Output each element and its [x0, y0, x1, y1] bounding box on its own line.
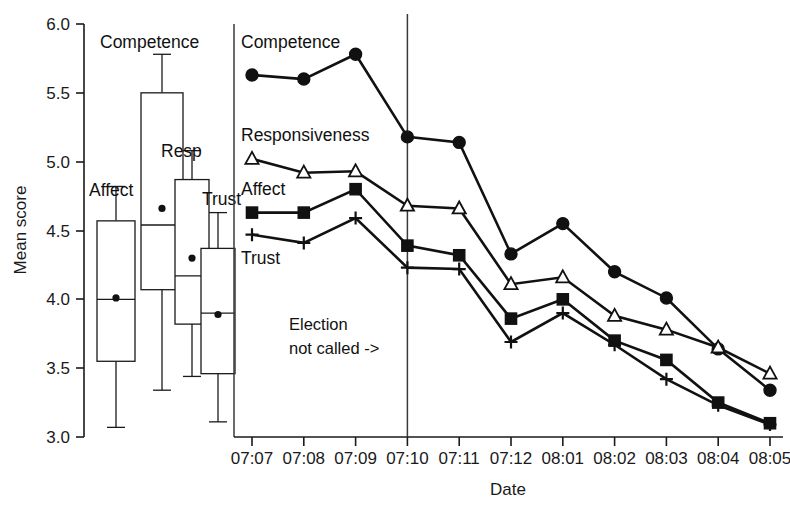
- line-panel-frame: [234, 24, 783, 437]
- x-tick-label: 07:07: [231, 449, 274, 468]
- y-axis-ticks: [76, 24, 84, 437]
- election-annotation: Election not called ->: [289, 315, 379, 357]
- y-axis-title: Mean score: [11, 186, 30, 275]
- data-point-filled-circle: [401, 131, 413, 143]
- series-affect: [246, 184, 775, 429]
- x-tick-label: 07:08: [283, 449, 326, 468]
- y-tick-label: 4.0: [46, 290, 70, 309]
- boxplot-label-competence: Competence: [100, 32, 199, 52]
- boxplot-affect: [97, 186, 135, 427]
- y-axis: 6.0 5.5 5.0 4.5 4.0 3.5 3.0 Mean score: [11, 15, 84, 447]
- x-tick-label: 08:05: [749, 449, 790, 468]
- boxplot-label-affect: Affect: [89, 180, 134, 200]
- y-tick-label: 3.5: [46, 359, 70, 378]
- mean-dot: [214, 311, 221, 318]
- data-point-plus: [246, 228, 259, 241]
- y-tick-label: 4.5: [46, 222, 70, 241]
- y-tick-label: 6.0: [46, 15, 70, 34]
- chart-canvas: 6.0 5.5 5.0 4.5 4.0 3.5 3.0 Mean score A…: [0, 0, 790, 507]
- boxplot-panel: AffectCompetenceRespTrust: [89, 32, 241, 427]
- x-tick-label: 07:09: [334, 449, 377, 468]
- data-point-open-triangle: [245, 152, 258, 164]
- boxplot-label-trust: Trust: [202, 189, 241, 209]
- data-point-filled-circle: [453, 136, 465, 148]
- series-polyline: [252, 189, 770, 423]
- data-point-open-triangle: [556, 270, 569, 282]
- annotation-line-1: Election: [289, 315, 348, 333]
- series-label-competence: Competence: [241, 32, 340, 52]
- data-point-filled-square: [246, 207, 257, 218]
- x-tick-label: 07:11: [439, 449, 480, 468]
- chart-figure: 6.0 5.5 5.0 4.5 4.0 3.5 3.0 Mean score A…: [0, 0, 790, 507]
- y-tick-label: 3.0: [46, 428, 70, 447]
- x-tick-label: 08:03: [645, 449, 688, 468]
- data-point-filled-square: [661, 354, 672, 365]
- data-point-filled-circle: [505, 248, 517, 260]
- data-point-filled-circle: [350, 48, 362, 60]
- series-label-layer: CompetenceResponsivenessAffectTrust: [241, 32, 370, 268]
- data-point-filled-square: [454, 250, 465, 261]
- box-iqr: [97, 221, 135, 361]
- series-label-affect: Affect: [241, 179, 286, 199]
- mean-dot: [112, 294, 119, 301]
- x-tick-label: 07:12: [490, 449, 533, 468]
- x-tick-label: 08:01: [542, 449, 585, 468]
- mean-dot: [188, 254, 195, 261]
- data-point-filled-circle: [246, 69, 258, 81]
- mean-dot: [158, 205, 165, 212]
- data-point-filled-circle: [298, 73, 310, 85]
- data-point-filled-circle: [660, 292, 672, 304]
- y-axis-tick-labels: 6.0 5.5 5.0 4.5 4.0 3.5 3.0: [46, 15, 70, 447]
- x-axis: 07:0707:0807:0907:1007:1107:1208:0108:02…: [231, 437, 790, 468]
- x-tick-label: 07:10: [386, 449, 429, 468]
- data-point-filled-circle: [557, 218, 569, 230]
- data-point-filled-square: [298, 207, 309, 218]
- series-label-trust: Trust: [241, 248, 280, 268]
- data-point-filled-square: [350, 184, 361, 195]
- series-label-responsiveness: Responsiveness: [241, 125, 370, 145]
- annotation-line-2: not called ->: [289, 339, 379, 357]
- data-point-plus: [297, 236, 310, 249]
- boxplot-label-resp: Resp: [161, 141, 202, 161]
- data-point-plus: [556, 307, 569, 320]
- x-axis-title: Date: [490, 480, 526, 499]
- y-tick-label: 5.0: [46, 153, 70, 172]
- data-point-filled-circle: [609, 266, 621, 278]
- data-point-filled-square: [505, 313, 516, 324]
- data-point-open-triangle: [608, 309, 621, 321]
- y-tick-label: 5.5: [46, 84, 70, 103]
- data-point-filled-square: [557, 294, 568, 305]
- x-tick-label: 08:04: [697, 449, 740, 468]
- data-point-filled-square: [402, 240, 413, 251]
- data-point-filled-circle: [764, 384, 776, 396]
- x-tick-label: 08:02: [593, 449, 636, 468]
- series-layer: [245, 48, 776, 431]
